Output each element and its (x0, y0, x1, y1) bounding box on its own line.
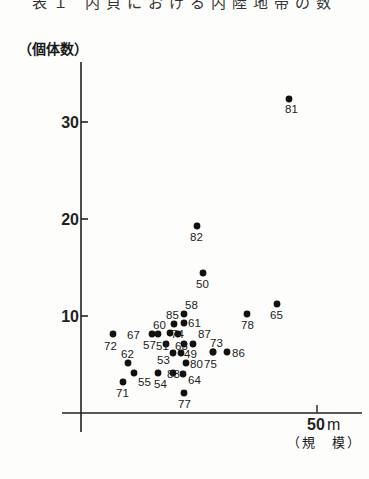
data-point-label: 64 (188, 374, 201, 386)
data-point (224, 349, 231, 356)
data-point-label: 85 (166, 309, 179, 321)
data-point-label: 82 (190, 231, 203, 243)
data-point-label: 65 (270, 309, 283, 321)
data-point (190, 341, 197, 348)
data-point (210, 349, 217, 356)
data-point (244, 311, 251, 318)
data-point (180, 371, 187, 378)
data-point-label: 78 (241, 319, 254, 331)
data-point (286, 96, 293, 103)
y-tick-label: 30 (61, 114, 79, 131)
data-point-label: 62 (121, 348, 134, 360)
data-point-label: 80 (190, 358, 203, 370)
data-point-label: 73 (210, 337, 223, 349)
data-point (131, 370, 138, 377)
x-unit-label: m (327, 416, 340, 433)
data-point (181, 311, 188, 318)
data-point (110, 331, 117, 338)
y-tick-label: 20 (61, 211, 79, 228)
data-point-label: 55 (138, 376, 151, 388)
y-tick-label: 10 (61, 308, 79, 325)
data-point-label: 74 (171, 328, 184, 340)
data-point-label: 87 (198, 328, 211, 340)
data-point-label: 58 (185, 299, 198, 311)
data-points: 8182506578588561607467725751638773867562… (104, 96, 298, 410)
data-point-label: 86 (232, 347, 245, 359)
data-point (274, 301, 281, 308)
x-tick-label: 50 (307, 416, 325, 433)
data-point-label: 81 (285, 103, 298, 115)
scatter-plot: 10203050m 818250657858856160746772575163… (0, 0, 369, 479)
data-point (181, 390, 188, 397)
data-point (171, 321, 178, 328)
data-point (155, 370, 162, 377)
data-point (194, 223, 201, 230)
data-point (149, 331, 156, 338)
data-point (181, 320, 188, 327)
data-point-label: 51 (156, 340, 169, 352)
data-point-label: 77 (178, 398, 191, 410)
chart-figure: 表１ 内貝における内陸地帯の数 （個体数） （規 模） 10203050m 81… (0, 0, 369, 479)
data-point (200, 270, 207, 277)
data-point (183, 360, 190, 367)
data-point-label: 54 (154, 378, 167, 390)
data-point-label: 72 (104, 340, 117, 352)
data-point (120, 379, 127, 386)
data-point-label: 53 (157, 354, 170, 366)
data-point-label: 71 (116, 387, 129, 399)
data-point (155, 331, 162, 338)
axes (62, 62, 362, 432)
data-point (125, 360, 132, 367)
data-point-label: 60 (153, 319, 166, 331)
data-point-label: 57 (143, 339, 156, 351)
data-point (170, 350, 177, 357)
data-point-label: 83 (167, 368, 180, 380)
data-point-label: 75 (204, 358, 217, 370)
data-point-label: 67 (127, 329, 140, 341)
data-point-label: 50 (196, 278, 209, 290)
